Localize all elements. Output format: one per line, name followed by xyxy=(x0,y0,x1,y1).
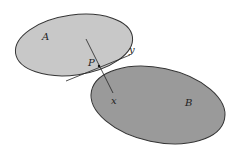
label-p: P xyxy=(87,57,95,68)
label-a: A xyxy=(41,31,49,42)
convex-sets-diagram: A B P x y xyxy=(0,0,237,151)
label-y: y xyxy=(128,44,135,55)
label-b: B xyxy=(184,97,192,108)
set-b-ellipse xyxy=(84,55,232,151)
label-x: x xyxy=(111,95,117,106)
point-p-dot xyxy=(98,65,100,67)
